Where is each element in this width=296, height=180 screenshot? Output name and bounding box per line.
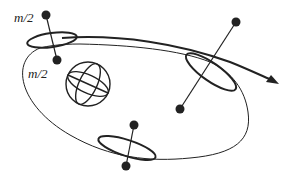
label-lower-mass: m/2 <box>28 66 48 81</box>
satellite-bottom <box>96 121 158 171</box>
orbit-diagram: m/2 m/2 <box>0 0 296 180</box>
mass-lower <box>53 56 62 65</box>
mass-lower <box>122 162 131 171</box>
satellite-right <box>176 18 241 114</box>
trajectory-arrow-line <box>62 37 272 80</box>
label-upper-mass: m/2 <box>14 10 34 25</box>
mass-upper <box>232 18 241 27</box>
arrow-head-icon <box>266 75 279 84</box>
mass-lower <box>176 105 185 114</box>
mass-upper <box>130 121 139 130</box>
mass-upper <box>42 11 51 20</box>
planet-sphere-icon <box>64 60 111 107</box>
